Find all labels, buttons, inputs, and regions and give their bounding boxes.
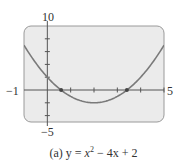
caption-const: 2 xyxy=(132,146,138,160)
root-point xyxy=(59,88,63,92)
plot-area xyxy=(0,0,187,168)
caption-plus: + xyxy=(122,146,129,160)
caption-minus: − xyxy=(97,146,104,160)
caption-lhs: y xyxy=(66,146,72,160)
x-max-label: 5 xyxy=(167,85,173,97)
y-max-label: 10 xyxy=(42,11,54,23)
caption-eq: = xyxy=(75,146,82,160)
y-min-label: −5 xyxy=(41,126,54,138)
root-point xyxy=(125,88,129,92)
x-min-label: −1 xyxy=(6,85,19,97)
caption-exponent: 2 xyxy=(90,145,94,154)
caption-prefix: (a) xyxy=(50,146,63,160)
figure-caption: (a) y = x2 − 4x + 2 xyxy=(0,146,187,159)
caption-term: 4x xyxy=(107,146,119,160)
graph-figure: 10 −5 −1 5 (a) y = x2 − 4x + 2 xyxy=(0,0,187,168)
